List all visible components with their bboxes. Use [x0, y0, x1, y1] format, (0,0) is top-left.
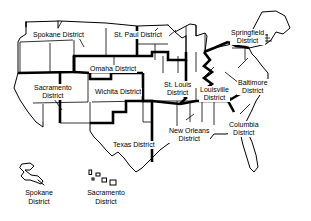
alaska-inset-shape	[20, 163, 44, 185]
district-label-sacramento: Sacramento District	[33, 84, 73, 100]
label-line: Baltimore	[238, 79, 268, 87]
district-label-new-orleans: New Orleans District	[168, 127, 210, 143]
label-line: Omaha District	[90, 65, 136, 73]
district-label-wichita: Wichita District	[94, 88, 142, 96]
district-map: Spokane District St. Paul District Sprin…	[0, 0, 311, 221]
label-line: District	[229, 129, 259, 137]
label-line: Louisville	[200, 86, 229, 94]
label-line: Wichita District	[95, 88, 141, 96]
leader-baltimore	[238, 58, 248, 68]
label-line: Spokane	[14, 189, 64, 198]
label-line: Columbia	[229, 121, 259, 129]
district-label-springfield: Springfield District	[230, 29, 265, 45]
label-line: District	[14, 198, 64, 207]
label-line: District	[78, 198, 134, 207]
leader-spokane-right	[58, 21, 62, 28]
district-label-omaha: Omaha District	[89, 65, 137, 73]
label-line: District	[34, 92, 72, 100]
label-line: Spokane District	[33, 31, 84, 39]
hawaii-inset-shape	[89, 170, 116, 185]
label-line: District	[238, 87, 268, 95]
district-label-spokane: Spokane District	[32, 31, 85, 39]
leader-columbia	[240, 104, 250, 114]
label-line: District	[164, 89, 191, 97]
label-line: New Orleans	[169, 127, 209, 135]
label-line: Texas District	[113, 141, 155, 149]
label-line: St. Louis	[164, 81, 191, 89]
inset-label-alaska: Spokane District	[14, 189, 64, 206]
label-line: Sacramento	[78, 189, 134, 198]
label-line: Springfield	[231, 29, 264, 37]
district-label-st-louis: St. Louis District	[163, 81, 192, 97]
label-line: St. Paul District	[114, 31, 162, 39]
district-label-columbia: Columbia District	[228, 121, 260, 137]
district-label-louisville: Louisville District	[199, 86, 230, 102]
label-line: District	[200, 94, 229, 102]
leader-stpaul-2	[169, 30, 176, 36]
inset-label-hawaii: Sacramento District	[78, 189, 134, 206]
label-line: Sacramento	[34, 84, 72, 92]
district-label-st-paul: St. Paul District	[113, 31, 163, 39]
label-line: District	[169, 135, 209, 143]
label-line: District	[231, 37, 264, 45]
district-label-baltimore: Baltimore District	[237, 79, 269, 95]
district-label-texas: Texas District	[112, 141, 156, 149]
